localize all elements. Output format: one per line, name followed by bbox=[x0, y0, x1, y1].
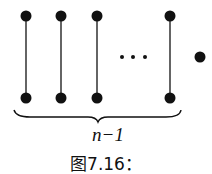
ellipsis-dots bbox=[120, 55, 147, 59]
vertices bbox=[21, 11, 176, 104]
figure-caption: 图7.16： bbox=[56, 150, 156, 174]
isolated-vertex bbox=[195, 52, 206, 63]
graph-diagram bbox=[0, 0, 212, 174]
brace-label: n−1 bbox=[78, 124, 138, 146]
underbrace bbox=[14, 110, 181, 122]
